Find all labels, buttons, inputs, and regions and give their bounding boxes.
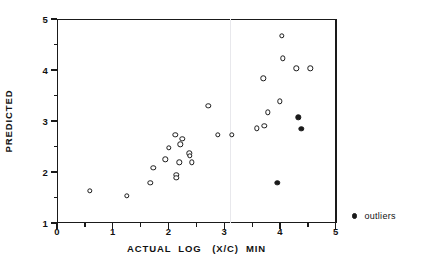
y-axis-tick xyxy=(51,222,57,223)
legend-outlier-marker-icon xyxy=(352,213,357,218)
x-axis-tick-label: 5 xyxy=(333,226,338,237)
x-axis-tick-label: 3 xyxy=(222,226,227,237)
y-axis-title: PREDICTED xyxy=(3,90,14,153)
y-axis-tick xyxy=(51,69,57,70)
x-axis-tick-label: 4 xyxy=(277,226,282,237)
x-axis-title: ACTUAL LOG (X/C) MIN xyxy=(57,243,336,254)
x-axis-minor-tick xyxy=(252,223,253,227)
x-axis-minor-tick xyxy=(307,223,308,227)
x-axis-minor-tick xyxy=(140,223,141,227)
y-axis-minor-tick xyxy=(54,95,58,96)
y-axis-tick xyxy=(51,171,57,172)
x-axis-minor-tick xyxy=(196,223,197,227)
y-axis-tick-label: 4 xyxy=(38,65,48,76)
y-axis-tick-label: 3 xyxy=(38,116,48,127)
legend-item-label: outliers xyxy=(364,211,395,221)
scatter-chart-figure: 012345 12345 ACTUAL LOG (X/C) MIN PREDIC… xyxy=(0,0,422,269)
plot-area xyxy=(57,19,336,223)
plot-right-spine xyxy=(335,19,337,223)
y-axis-minor-tick xyxy=(54,197,58,198)
legend: outliers xyxy=(352,211,396,221)
x-axis-tick-label: 1 xyxy=(110,226,115,237)
y-axis-tick xyxy=(51,120,57,121)
y-axis-tick-label: 2 xyxy=(38,167,48,178)
y-axis-tick xyxy=(51,18,57,19)
vertical-guide-line xyxy=(230,19,231,223)
y-axis-minor-tick xyxy=(54,146,58,147)
x-axis-tick-label: 0 xyxy=(54,226,59,237)
x-axis-tick-label: 2 xyxy=(166,226,171,237)
y-axis-tick-label: 1 xyxy=(38,218,48,229)
y-axis-minor-tick xyxy=(54,44,58,45)
y-axis-tick-label: 5 xyxy=(38,14,48,25)
x-axis-minor-tick xyxy=(84,223,85,227)
